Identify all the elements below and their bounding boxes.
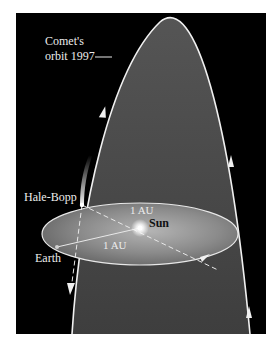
earth-label: Earth	[35, 251, 61, 265]
sun	[138, 226, 143, 231]
earth-planet	[55, 245, 59, 249]
orbit-label-line2: orbit 1997	[45, 49, 95, 63]
distance-label-upper: 1 AU	[130, 204, 154, 216]
comet-label: Hale-Bopp	[24, 190, 77, 204]
comet-orbit-diagram: Comet's orbit 1997 Hale-Bopp Earth 1 AU …	[0, 0, 276, 346]
distance-label-lower: 1 AU	[103, 239, 127, 251]
orbit-label-line1: Comet's	[45, 34, 84, 48]
comet-hale-bopp	[80, 203, 84, 207]
sun-label: Sun	[149, 216, 169, 230]
